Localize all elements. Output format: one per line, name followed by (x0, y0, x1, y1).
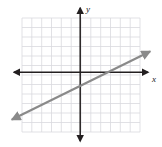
graph-canvas: y x (0, 0, 162, 147)
grid-lines (22, 18, 140, 132)
coordinate-plane-figure: y x (0, 0, 162, 147)
x-axis-label: x (151, 74, 156, 84)
y-axis-label: y (85, 4, 90, 14)
